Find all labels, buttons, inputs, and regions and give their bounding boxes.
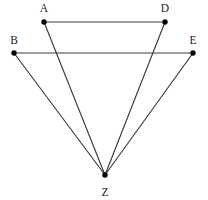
vertex-label-A: A [40,2,49,14]
segment-AZ [44,22,105,175]
vertex-point-B [11,50,16,55]
vertex-point-A [41,19,46,24]
vertex-label-Z: Z [101,186,108,198]
vertex-point-Z [102,172,107,177]
segment-DZ [105,22,165,175]
geometry-diagram: A D B E Z [0,0,208,200]
diagram-canvas: A D B E Z [0,0,208,200]
segment-BZ [14,53,105,175]
vertex-label-E: E [189,34,196,46]
vertex-label-B: B [10,34,18,46]
vertex-point-D [162,19,167,24]
vertex-point-E [190,50,195,55]
segment-EZ [105,53,193,175]
vertex-label-D: D [161,2,169,14]
